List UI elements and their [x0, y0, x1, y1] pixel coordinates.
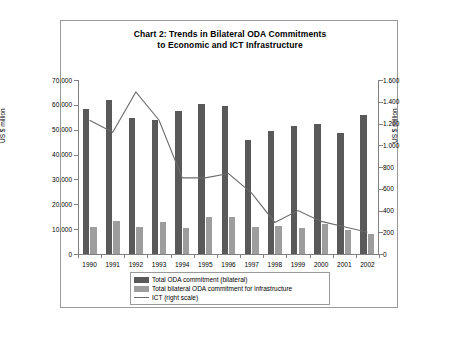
y-axis-right-tick-label: 200 — [383, 229, 425, 236]
y-axis-left-tick-label: 30.000 — [30, 176, 72, 183]
y-axis-left-tick-label: 50.000 — [30, 126, 72, 133]
chart-legend: Total ODA commitment (bilateral)Total bi… — [130, 272, 330, 305]
y-axis-right-tick-label: 1.600 — [383, 77, 425, 84]
y-axis-left-tick-label: 60.000 — [30, 101, 72, 108]
legend-label: Total ODA commitment (bilateral) — [152, 276, 247, 283]
x-axis-tick — [379, 254, 380, 258]
y-axis-right-tick-label: 1.200 — [383, 120, 425, 127]
y-axis-left-tick-label: 40.000 — [30, 151, 72, 158]
y-axis-left-title: US $ million — [0, 108, 6, 143]
y-axis-left-tick-label: 70.000 — [30, 77, 72, 84]
y-axis-right-tick-label: 0 — [383, 251, 425, 258]
legend-item: ICT (right scale) — [134, 293, 326, 302]
y-axis-right-tick-label: 800 — [383, 164, 425, 171]
legend-item: Total bilateral ODA commitment for infra… — [134, 284, 326, 293]
legend-label: ICT (right scale) — [152, 294, 198, 301]
y-axis-left-tick-label: 20.000 — [30, 201, 72, 208]
chart-title-line-1: Chart 2: Trends in Bilateral ODA Commitm… — [61, 29, 399, 40]
chart-title-line-2: to Economic and ICT Infrastructure — [61, 40, 399, 51]
legend-swatch-dark — [134, 277, 149, 283]
y-axis-right-tick-label: 400 — [383, 207, 425, 214]
y-axis-right-tick-label: 600 — [383, 185, 425, 192]
y-axis-right-tick-label: 1.000 — [383, 142, 425, 149]
x-axis-tick-label: 2002 — [352, 261, 382, 268]
ict-line-series — [78, 80, 379, 255]
y-axis-right-tick-label: 1.400 — [383, 98, 425, 105]
plot-area: 010.00020.00030.00040.00050.00060.00070.… — [78, 80, 379, 254]
y-axis-left-tick-label: 0 — [30, 251, 72, 258]
chart-title: Chart 2: Trends in Bilateral ODA Commitm… — [61, 29, 399, 51]
legend-label: Total bilateral ODA commitment for infra… — [152, 285, 292, 292]
legend-swatch-light — [134, 286, 149, 292]
legend-item: Total ODA commitment (bilateral) — [134, 275, 326, 284]
y-axis-right-title: US $ million — [391, 108, 398, 143]
chart-frame: Chart 2: Trends in Bilateral ODA Commitm… — [60, 20, 398, 308]
legend-swatch-line — [134, 295, 149, 301]
y-axis-left-tick-label: 10.000 — [30, 226, 72, 233]
